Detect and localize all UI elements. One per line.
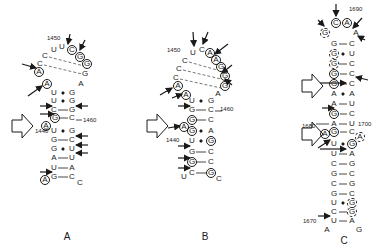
- nucleotide: C: [175, 65, 183, 73]
- position-number: 1450: [167, 47, 180, 53]
- nucleotide: A: [323, 226, 331, 234]
- panel-label: B: [202, 231, 209, 242]
- nucleotide: C: [348, 60, 356, 68]
- nucleotide: A: [173, 81, 183, 91]
- nucleotide: U: [330, 217, 338, 225]
- nucleotide: A: [330, 100, 338, 108]
- nucleotide: A: [348, 90, 356, 98]
- nucleotide: A: [342, 18, 352, 28]
- nucleotide: C: [348, 80, 356, 88]
- nucleotide: C: [188, 169, 196, 177]
- nucleotide: G: [50, 136, 58, 144]
- nucleotide: U: [348, 100, 356, 108]
- panel-label: C: [340, 235, 347, 246]
- nucleotide: G: [320, 28, 330, 38]
- nucleotide: G: [329, 49, 339, 59]
- nucleotide: G: [329, 109, 339, 119]
- nucleotide: G: [50, 173, 58, 181]
- nucleotide: C: [68, 114, 76, 122]
- nucleotide: C: [330, 180, 338, 188]
- position-number: 1690: [349, 6, 362, 12]
- nucleotide: G: [330, 40, 338, 48]
- nucleotide: C: [207, 116, 215, 124]
- position-number: 1460: [220, 106, 233, 112]
- nucleotide: A: [34, 67, 44, 77]
- nucleotide: A: [77, 80, 85, 88]
- position-number: 1440: [35, 128, 48, 134]
- nucleotide: U: [50, 127, 58, 135]
- panel-b-open-arrow-icon: [147, 114, 168, 138]
- nucleotide: C: [68, 173, 76, 181]
- nucleotide: G: [206, 136, 216, 146]
- position-number: 1670: [303, 218, 316, 224]
- panel-c-upper-open-arrow-icon: [302, 74, 323, 98]
- nucleotide: G: [329, 127, 339, 137]
- nucleotide: U: [50, 97, 58, 105]
- nucleotide: G: [329, 59, 339, 69]
- nucleotide: C: [181, 57, 189, 65]
- nucleotide: A: [50, 154, 58, 162]
- nucleotide: G: [68, 97, 76, 105]
- panel-a-open-arrow-icon: [12, 114, 33, 138]
- nucleotide: C: [348, 70, 356, 78]
- position-number: 1450: [47, 35, 60, 41]
- nucleotide: C: [207, 158, 215, 166]
- nucleotide: U: [188, 137, 196, 145]
- nucleotide: U: [68, 145, 76, 153]
- nucleotide: G: [220, 71, 230, 81]
- nucleotide: G: [187, 126, 197, 136]
- nucleotide: G: [68, 127, 76, 135]
- nucleotide: C: [348, 40, 356, 48]
- nucleotide: G: [50, 145, 58, 153]
- rna-secondary-structure-figure: UUCGGCCGAAAUGUGCGGCAUGGCGUAUUAAGCC145014…: [0, 0, 377, 250]
- nucleotide: U: [330, 150, 338, 158]
- position-number: 1460: [83, 117, 96, 123]
- nucleotide: G: [188, 106, 196, 114]
- nucleotide: A: [207, 127, 215, 135]
- nucleotide: U: [58, 43, 66, 51]
- nucleotide: C: [348, 190, 356, 198]
- panel-label: A: [64, 231, 71, 242]
- position-number: 1440: [166, 137, 179, 143]
- nucleotide: G: [329, 69, 339, 79]
- nucleotide: U: [330, 140, 338, 148]
- nucleotide: G: [187, 115, 197, 125]
- nucleotide: U: [189, 49, 197, 57]
- nucleotide: A: [214, 90, 222, 98]
- nucleotide: G: [81, 70, 89, 78]
- nucleotide: C: [348, 170, 356, 178]
- nucleotide: C: [68, 136, 76, 144]
- nucleotide: A: [40, 175, 50, 185]
- nucleotide: A: [355, 132, 365, 142]
- nucleotide: G: [187, 157, 197, 167]
- nucleotide: C: [207, 106, 215, 114]
- position-number: 1680: [302, 123, 315, 129]
- nucleotide: C: [330, 160, 338, 168]
- nucleotide: C: [348, 110, 356, 118]
- nucleotide: A: [330, 90, 338, 98]
- nucleotide: A: [348, 150, 356, 158]
- nucleotide: A: [348, 217, 356, 225]
- position-number: 1700: [358, 121, 371, 127]
- nucleotide: C: [207, 148, 215, 156]
- nucleotide: U: [330, 199, 338, 207]
- nucleotide: G: [330, 190, 338, 198]
- nucleotide: G: [347, 139, 357, 149]
- nucleotide: A: [68, 164, 76, 172]
- nucleotide: G: [207, 97, 215, 105]
- nucleotide: U: [348, 50, 356, 58]
- nucleotide: G: [348, 180, 356, 188]
- nucleotide: C: [330, 208, 338, 216]
- nucleotide: U: [188, 97, 196, 105]
- nucleotide: G: [355, 226, 363, 234]
- nucleotide: G: [330, 170, 338, 178]
- nucleotide: A: [352, 29, 360, 37]
- nucleotide: G: [188, 148, 196, 156]
- nucleotide: C: [215, 175, 223, 183]
- nucleotide: C: [331, 18, 341, 28]
- nucleotide: U: [50, 46, 58, 54]
- nucleotide: G: [50, 113, 60, 123]
- nucleotide: G: [82, 59, 92, 69]
- nucleotide: U: [50, 164, 58, 172]
- nucleotide: G: [329, 79, 339, 89]
